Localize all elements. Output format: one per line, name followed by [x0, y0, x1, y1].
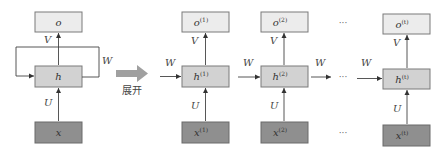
ellipsis-region: W ··· ··· ···	[311, 18, 347, 138]
unfold-label: 展开	[122, 85, 142, 96]
ellipsis-middle: ···	[339, 72, 348, 82]
w-label: W	[361, 57, 372, 68]
step-2: W o(2) h(2) x(2) V U	[238, 12, 308, 143]
hidden-label: h	[55, 71, 61, 82]
ellipsis-top: ···	[339, 18, 348, 28]
u-label: U	[191, 100, 200, 111]
step-t: W o(t) h(t) x(t) V U	[357, 14, 430, 146]
weight-u-label: U	[44, 97, 53, 108]
weight-v-label: V	[44, 34, 53, 45]
output-label: o	[55, 17, 61, 28]
u-label: U	[393, 103, 402, 114]
unfold-arrow-group: 展开	[116, 65, 148, 96]
ellipsis-bottom: ···	[339, 128, 348, 138]
input-label: x	[56, 127, 62, 138]
step-1: W o(1) h(1) x(1) V U	[160, 12, 229, 143]
v-label: V	[393, 37, 402, 48]
v-label: V	[270, 35, 279, 46]
u-label: U	[270, 100, 279, 111]
w-label: W	[315, 57, 326, 68]
v-label: V	[191, 35, 200, 46]
folded-rnn: o h x V U W	[16, 12, 113, 143]
w-label: W	[165, 57, 176, 68]
weight-w-label: W	[102, 55, 113, 66]
rnn-unfold-diagram: o h x V U W 展开 W o(1) h(1) x(1) V U	[0, 0, 444, 157]
w-label: W	[243, 57, 254, 68]
unfold-arrow-icon	[116, 65, 148, 82]
